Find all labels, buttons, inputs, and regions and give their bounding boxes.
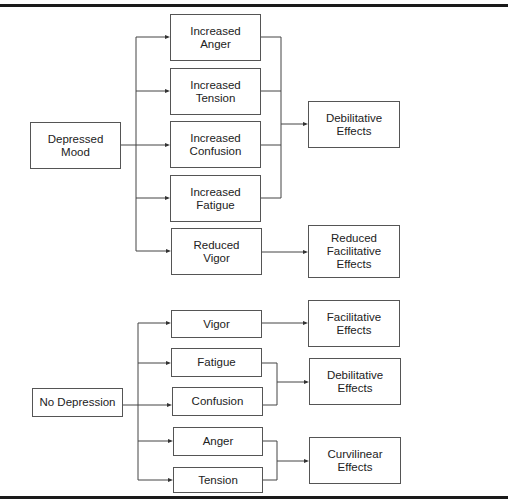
- increased-tension-box: Increased Tension: [170, 68, 261, 115]
- reduced-facilitative-effects-box: Reduced Facilitative Effects: [308, 225, 400, 278]
- increased-confusion-box: Increased Confusion: [170, 121, 261, 168]
- anger-box: Anger: [173, 427, 263, 456]
- confusion-box: Confusion: [172, 387, 263, 416]
- depressed-mood-box: Depressed Mood: [30, 122, 121, 169]
- debilitative-effects-box-bottom: Debilitative Effects: [309, 358, 401, 405]
- reduced-vigor-box: Reduced Vigor: [171, 228, 262, 275]
- debilitative-effects-box: Debilitative Effects: [308, 101, 400, 148]
- no-depression-box: No Depression: [32, 388, 123, 417]
- curvilinear-effects-box: Curvilinear Effects: [309, 437, 401, 484]
- facilitative-effects-box: Facilitative Effects: [308, 300, 400, 347]
- vigor-box: Vigor: [171, 310, 262, 338]
- increased-anger-box: Increased Anger: [170, 14, 261, 61]
- tension-box: Tension: [173, 467, 263, 493]
- fatigue-box: Fatigue: [171, 348, 262, 377]
- increased-fatigue-box: Increased Fatigue: [170, 175, 261, 222]
